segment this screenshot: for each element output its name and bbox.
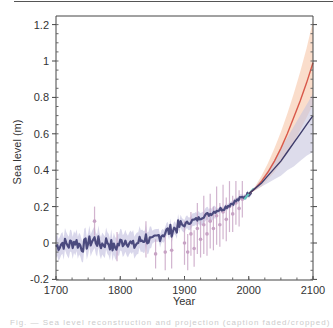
observation-point (202, 223, 206, 227)
observation-point (199, 238, 203, 242)
observation-point (212, 227, 216, 231)
x-tick-label: 2000 (237, 284, 261, 296)
observation-point (186, 250, 190, 254)
x-axis-title: Year (173, 295, 196, 307)
observation-point (215, 214, 219, 218)
observation-point (192, 247, 196, 251)
observation-point (93, 219, 97, 223)
sea-level-chart: -0.200.20.40.60.811.21700180019002000210… (0, 0, 333, 328)
observation-point (205, 232, 209, 236)
y-axis-title: Sea level (m) (11, 120, 23, 185)
y-tick-label: 0.2 (34, 201, 49, 213)
y-tick-label: 0 (43, 237, 49, 249)
y-tick-label: 0.8 (34, 91, 49, 103)
observation-point (224, 218, 228, 222)
y-tick-label: 0.6 (34, 128, 49, 140)
x-tick-label: 1800 (108, 284, 132, 296)
observation-point (170, 248, 174, 252)
observation-point (208, 219, 212, 223)
observation-point (189, 232, 193, 236)
observation-point (231, 212, 235, 216)
x-tick-label: 2100 (301, 284, 325, 296)
observation-point (218, 223, 222, 227)
x-tick-label: 1700 (44, 284, 68, 296)
observation-point (183, 241, 187, 245)
y-tick-label: 1 (43, 55, 49, 67)
observation-point (237, 207, 241, 211)
observation-point (163, 250, 167, 254)
observation-point (196, 227, 200, 231)
figure-caption: Fig. — Sea level reconstruction and proj… (10, 318, 330, 327)
reconstruction-band (56, 190, 251, 263)
y-tick-label: 0.4 (34, 164, 49, 176)
observation-point (154, 252, 158, 256)
y-tick-label: 1.2 (34, 19, 49, 31)
reconstruction-line (56, 192, 251, 251)
